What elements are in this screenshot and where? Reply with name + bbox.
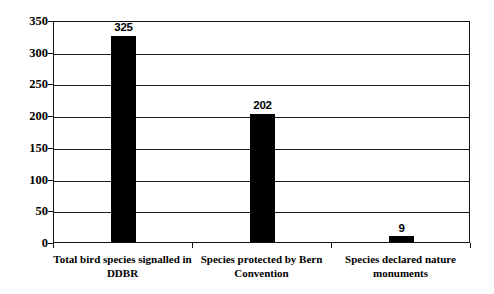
y-axis-tick-label: 300 xyxy=(14,47,48,59)
bar-group: 9 xyxy=(332,22,471,242)
y-axis-label-group: 350 300 250 200 150 100 50 0 xyxy=(8,0,48,294)
x-axis-label-group: Total bird species signalled in DDBR Spe… xyxy=(53,252,470,292)
bar xyxy=(389,236,414,242)
y-axis-tick-label: 150 xyxy=(14,142,48,154)
bar-value-label: 9 xyxy=(372,222,432,234)
bar-value-label: 325 xyxy=(94,21,154,33)
y-axis-tick-label: 100 xyxy=(14,174,48,186)
bar-group: 325 xyxy=(54,22,193,242)
bar-group: 202 xyxy=(193,22,332,242)
bar xyxy=(111,36,136,242)
y-axis-tick-label: 50 xyxy=(14,205,48,217)
y-axis-tick-label: 200 xyxy=(14,110,48,122)
y-axis-tick-label: 250 xyxy=(14,78,48,90)
plot-area: 325 202 9 xyxy=(53,21,470,243)
x-axis-tick-mark xyxy=(192,243,193,248)
x-axis-tick-mark xyxy=(331,243,332,248)
x-axis-tick-mark xyxy=(470,243,471,248)
bar-value-label: 202 xyxy=(233,99,293,111)
x-axis-category-label: Species declared nature monuments xyxy=(331,252,470,280)
bars-layer: 325 202 9 xyxy=(54,22,469,242)
y-axis-tick-label: 0 xyxy=(14,237,48,249)
x-axis-tick-mark xyxy=(53,243,54,248)
x-axis-category-label: Total bird species signalled in DDBR xyxy=(53,252,192,280)
bar xyxy=(250,114,275,242)
bar-chart-figure: 350 300 250 200 150 100 50 0 325 202 xyxy=(0,0,494,294)
y-axis-tick-label: 350 xyxy=(14,15,48,27)
x-axis-category-label: Species protected by Bern Convention xyxy=(192,252,331,280)
